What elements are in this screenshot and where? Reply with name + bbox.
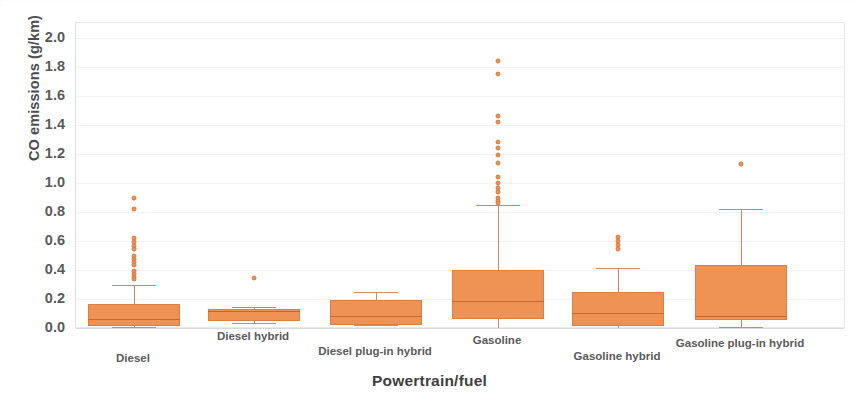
box [695,265,787,320]
x-axis-tick: Gasoline hybrid [574,350,661,362]
median-line [208,311,300,312]
y-axis-tick: 2.0 [13,29,65,45]
x-axis-tick: Diesel [116,352,150,364]
x-axis-baseline [76,328,844,329]
outlier-point [132,246,137,251]
upper-whisker-cap [596,268,640,269]
gridline [76,96,844,97]
gridline [76,212,844,213]
upper-whisker-cap [112,285,156,286]
outlier-point [132,207,137,212]
x-axis-title: Powertrain/fuel [0,372,859,390]
gridline [76,241,844,242]
median-line [695,316,787,317]
upper-whisker [741,209,742,265]
lower-whisker-cap [232,323,276,324]
outlier-point [496,153,501,158]
median-line [452,301,544,302]
upper-whisker-cap [719,209,763,210]
gridline [76,67,844,68]
box [572,292,664,325]
median-line [330,316,422,317]
upper-whisker [376,292,377,301]
outlier-point [496,146,501,151]
box [330,300,422,325]
outlier-point [496,120,501,125]
gridline [76,125,844,126]
upper-whisker-cap [232,307,276,308]
lower-whisker [498,319,499,328]
x-axis-tick: Diesel plug-in hybrid [318,345,432,357]
lower-whisker [741,320,742,327]
y-axis-tick: 0.0 [13,319,65,335]
y-axis-tick: 1.4 [13,116,65,132]
y-axis-tick: 0.6 [13,232,65,248]
upper-whisker [498,205,499,270]
y-axis-tick: 0.4 [13,261,65,277]
outlier-point [496,140,501,145]
lower-whisker-cap [354,325,398,326]
outlier-point [132,277,137,282]
x-axis-tick: Diesel hybrid [217,330,289,342]
outlier-point [496,114,501,119]
median-line [88,319,180,320]
box [88,304,180,326]
box-plot-chart: CO emissions (g/km) Powertrain/fuel 2.01… [0,0,859,417]
box [452,270,544,319]
y-axis-tick: 0.8 [13,203,65,219]
y-axis-tick: 1.6 [13,87,65,103]
y-axis-tick: 1.2 [13,145,65,161]
plot-area [75,22,845,328]
x-axis-tick: Gasoline [473,334,522,346]
upper-whisker [134,285,135,305]
gridline [76,38,844,39]
outlier-point [496,201,501,206]
gridline [76,183,844,184]
y-axis-tick: 1.0 [13,174,65,190]
y-axis-tick: 0.2 [13,290,65,306]
outlier-point [496,72,501,77]
outlier-point [496,59,501,64]
upper-whisker [618,268,619,293]
y-axis-tick: 1.8 [13,58,65,74]
outlier-point [739,162,744,167]
outlier-point [616,246,621,251]
outlier-point [132,195,137,200]
outlier-point [132,262,137,267]
gridline [76,154,844,155]
upper-whisker-cap [354,292,398,293]
outlier-point [252,275,257,280]
median-line [572,313,664,314]
outlier-point [496,175,501,180]
outlier-point [496,160,501,165]
x-axis-tick: Gasoline plug-in hybrid [676,337,804,349]
